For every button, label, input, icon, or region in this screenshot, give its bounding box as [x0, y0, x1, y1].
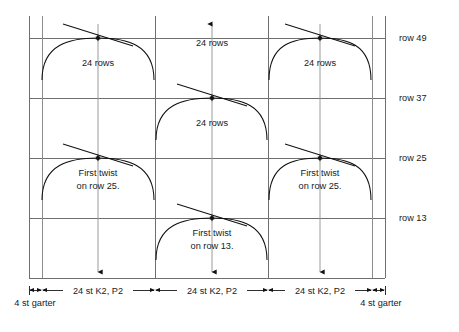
- annotation-center-mid: 24 rows: [196, 118, 229, 128]
- cable-arcs: [42, 38, 371, 260]
- dimension-ruler: 24 st K2, P2 24 st K2, P2 24 st K2, P2: [29, 283, 385, 297]
- dim-arrow-panel-2-end: [263, 288, 268, 292]
- dim-label-panel-1: 24 st K2, P2: [73, 286, 123, 296]
- row-labels: row 49 row 37 row 25 row 13: [399, 33, 427, 223]
- dim-arrow-right-garter-start: [372, 288, 377, 292]
- annotation-center-twist-line1: First twist: [193, 228, 232, 238]
- annotation-center-top: 24 rows: [196, 38, 229, 48]
- dim-arrow-panel-1-end: [150, 288, 155, 292]
- dim-arrow-panel-3-start: [268, 288, 273, 292]
- dim-arrow-panel-1-start: [42, 288, 47, 292]
- annotation-left-top: 24 rows: [82, 58, 115, 68]
- annotation-left-twist-line2: on row 25.: [77, 181, 120, 191]
- dim-arrow-right-garter-end: [380, 288, 385, 292]
- annotation-right-twist-line2: on row 25.: [299, 181, 342, 191]
- garter-label-left: 4 st garter: [14, 298, 55, 308]
- knitting-cable-chart: 24 rows 24 rows 24 rows 24 rows First tw…: [0, 0, 459, 332]
- twist-point-markers: [96, 35, 323, 222]
- dim-arrow-left-garter-start: [29, 288, 34, 292]
- row-label-25: row 25: [399, 153, 427, 163]
- row-label-49: row 49: [399, 33, 427, 43]
- row-label-13: row 13: [399, 213, 427, 223]
- dim-label-panel-2: 24 st K2, P2: [187, 286, 237, 296]
- annotation-center-twist-line2: on row 13.: [191, 241, 234, 251]
- edge-labels: 4 st garter 4 st garter: [14, 298, 401, 308]
- annotation-right-twist-line1: First twist: [301, 168, 340, 178]
- dim-arrow-panel-2-start: [155, 288, 160, 292]
- chart-canvas: 24 rows 24 rows 24 rows 24 rows First tw…: [0, 0, 459, 332]
- row-label-37: row 37: [399, 93, 427, 103]
- panel-annotations: 24 rows 24 rows 24 rows 24 rows First tw…: [77, 38, 342, 251]
- annotation-left-twist-line1: First twist: [79, 168, 118, 178]
- dim-arrow-left-garter-end: [37, 288, 42, 292]
- chart-grid: [29, 16, 385, 278]
- dim-arrow-panel-3-end: [367, 288, 372, 292]
- dim-label-panel-3: 24 st K2, P2: [295, 286, 345, 296]
- annotation-right-top: 24 rows: [304, 58, 337, 68]
- garter-label-right: 4 st garter: [360, 298, 401, 308]
